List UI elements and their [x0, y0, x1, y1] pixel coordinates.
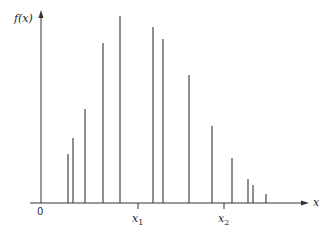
- x1-label-sub: 1: [138, 218, 143, 227]
- origin-label: 0: [37, 207, 43, 217]
- y-axis-arrow-icon: [39, 10, 44, 18]
- x2-label: x2: [218, 213, 229, 227]
- axes: [30, 10, 309, 209]
- x1-label: x1: [132, 213, 143, 227]
- x2-label-sub: 2: [224, 218, 229, 227]
- spike-series: [68, 16, 266, 203]
- y-axis-label: f(x): [14, 13, 33, 24]
- x-axis-label: x: [313, 197, 319, 208]
- x-axis-arrow-icon: [301, 201, 309, 206]
- pmf-chart: [0, 0, 333, 233]
